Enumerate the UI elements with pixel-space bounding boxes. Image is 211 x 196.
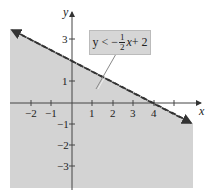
y-tick-label: −2 xyxy=(57,139,69,151)
annotation-rhs: + 2 xyxy=(132,35,148,50)
y-tick-label: 3 xyxy=(62,33,68,45)
x-tick-label: 4 xyxy=(151,107,157,119)
x-tick-label: 2 xyxy=(110,107,116,119)
x-axis-label: x xyxy=(198,104,205,118)
x-tick-label: −1 xyxy=(45,107,57,119)
annotation-lhs: y < − xyxy=(92,35,118,50)
x-tick-label: 1 xyxy=(89,107,95,119)
x-tick-label: 3 xyxy=(130,107,136,119)
y-axis-label: y xyxy=(62,5,69,19)
fraction-denominator: 2 xyxy=(120,43,125,52)
y-tick-label: −3 xyxy=(57,160,69,172)
x-tick-label: −2 xyxy=(25,107,37,119)
y-tick-label: 1 xyxy=(62,75,68,87)
fraction: 1 2 xyxy=(119,33,126,52)
inequality-annotation: y < − 1 2 x + 2 xyxy=(89,30,151,55)
y-tick-label: −1 xyxy=(57,118,69,130)
